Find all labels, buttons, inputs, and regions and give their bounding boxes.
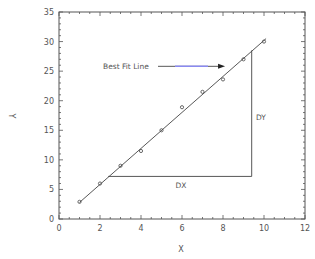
x-tick-label: 2 [97,224,102,233]
x-tick-label: 10 [259,224,269,233]
y-tick-label: 30 [44,38,54,47]
scatter-plot: 02468101205101520253035 X Y Best Fit Lin… [0,0,315,259]
y-tick-label: 15 [44,126,54,135]
dy-label: DY [256,113,266,122]
x-tick-label: 4 [138,224,143,233]
data-point-marker [180,106,183,109]
y-tick-label: 0 [49,215,54,224]
dx-label: DX [176,181,187,190]
x-tick-label: 6 [179,224,184,233]
best-fit-label: Best Fit Line [103,62,149,71]
y-tick-label: 5 [49,185,54,194]
arrow-head-icon [218,64,225,69]
y-tick-label: 20 [44,97,54,106]
x-tick-label: 12 [300,224,310,233]
x-tick-label: 8 [220,224,225,233]
y-axis-label: Y [7,113,16,119]
y-tick-label: 35 [44,8,54,17]
x-tick-label: 0 [56,224,61,233]
x-axis-label: X [178,245,184,254]
data-point-marker [221,78,224,81]
y-tick-label: 25 [44,67,54,76]
y-tick-label: 10 [44,156,54,165]
chart-container: 02468101205101520253035 X Y Best Fit Lin… [0,0,315,259]
